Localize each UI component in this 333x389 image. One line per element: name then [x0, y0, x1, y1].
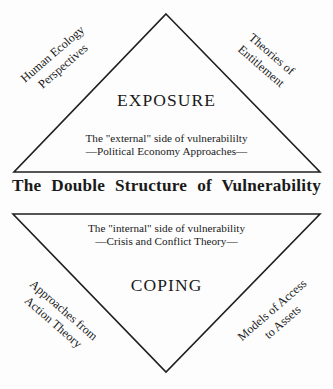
double-structure-of-vulnerability-diagram: EXPOSURE The "external" side of vulnerab… [0, 0, 333, 389]
coping-subtext-line-2: —Crisis and Conflict Theory— [0, 235, 333, 248]
exposure-subtext-line-1: The "external" side of vulnerabililty [85, 132, 247, 144]
exposure-subtext-line-2: —Political Economy Approaches— [0, 145, 333, 158]
exposure-subtext: The "external" side of vulnerabililty —P… [0, 132, 333, 158]
coping-subtext-line-1: The "internal" side of vulnerability [88, 222, 245, 234]
diagram-center-title: The Double Structure of Vulnerability [0, 176, 333, 196]
exposure-heading: EXPOSURE [0, 90, 333, 111]
coping-subtext: The "internal" side of vulnerability —Cr… [0, 222, 333, 248]
